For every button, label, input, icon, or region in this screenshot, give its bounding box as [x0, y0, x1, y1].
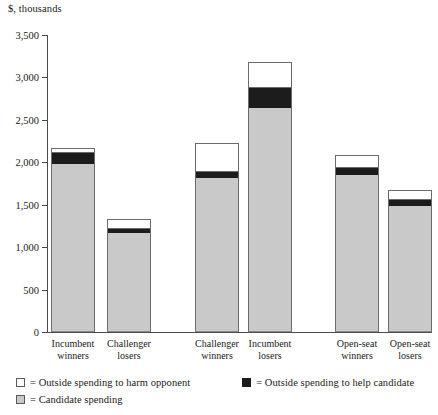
y-tick-3000: 3,000	[42, 77, 47, 78]
y-tick-label-500: 500	[23, 284, 39, 295]
legend-row-1: = Outside spending to harm opponent = Ou…	[16, 374, 434, 391]
x-label-open-seat-losers: Open-seatlosers	[365, 338, 438, 362]
bar-segment-gray	[195, 178, 239, 332]
legend-label-help: = Outside spending to help candidate	[256, 377, 414, 388]
plot-area: 3,5003,0002,5002,0001,5001,0005000	[47, 35, 432, 332]
x-label-line: Open-seat	[365, 338, 438, 350]
y-tick-1500: 1,500	[42, 205, 47, 206]
bar-incumbent-losers	[248, 62, 292, 332]
y-tick-label-1500: 1,500	[15, 199, 39, 210]
stacked-bar-chart: $, thousands 3,5003,0002,5002,0001,5001,…	[0, 0, 438, 415]
bar-incumbent-winners	[51, 148, 95, 332]
bar-segment-black	[51, 153, 95, 164]
y-tick-label-0: 0	[34, 327, 39, 338]
bar-segment-white	[107, 219, 151, 229]
x-label-line: Challenger	[84, 338, 174, 350]
x-axis-line	[47, 332, 432, 333]
chart-legend: = Outside spending to harm opponent = Ou…	[16, 374, 434, 408]
x-label-line: losers	[365, 350, 438, 362]
y-tick-2500: 2,500	[42, 120, 47, 121]
legend-swatch-black-icon	[242, 378, 251, 387]
legend-label-harm: = Outside spending to harm opponent	[30, 377, 190, 388]
bar-segment-gray	[335, 175, 379, 332]
x-label-line: Incumbent	[225, 338, 315, 350]
bar-challenger-winners	[195, 143, 239, 332]
legend-swatch-white-icon	[16, 378, 25, 387]
y-tick-label-1000: 1,000	[15, 242, 39, 253]
bar-challenger-losers	[107, 219, 151, 332]
bar-segment-white	[335, 155, 379, 168]
x-label-line: losers	[84, 350, 174, 362]
y-tick-3500: 3,500	[42, 35, 47, 36]
y-tick-1000: 1,000	[42, 247, 47, 248]
legend-item-harm: = Outside spending to harm opponent	[16, 377, 190, 388]
y-tick-0: 0	[42, 332, 47, 333]
bar-segment-gray	[248, 108, 292, 332]
y-tick-500: 500	[42, 290, 47, 291]
bar-segment-black	[248, 88, 292, 107]
bar-segment-gray	[388, 206, 432, 332]
bar-segment-white	[195, 143, 239, 173]
bar-open-seat-winners	[335, 155, 379, 332]
bar-segment-gray	[107, 233, 151, 332]
x-label-challenger-losers: Challengerlosers	[84, 338, 174, 362]
y-tick-2000: 2,000	[42, 162, 47, 163]
bar-segment-white	[388, 190, 432, 200]
bar-segment-white	[248, 62, 292, 88]
legend-label-candidate: = Candidate spending	[30, 394, 123, 405]
y-tick-label-2500: 2,500	[15, 114, 39, 125]
legend-item-help: = Outside spending to help candidate	[242, 377, 414, 388]
y-tick-label-2000: 2,000	[15, 157, 39, 168]
bar-segment-black	[335, 168, 379, 175]
y-axis-caption: $, thousands	[8, 3, 62, 14]
y-tick-label-3000: 3,000	[15, 72, 39, 83]
bar-segment-gray	[51, 164, 95, 332]
y-tick-label-3500: 3,500	[15, 30, 39, 41]
x-label-line: losers	[225, 350, 315, 362]
x-label-incumbent-losers: Incumbentlosers	[225, 338, 315, 362]
legend-row-2: = Candidate spending	[16, 391, 434, 408]
y-axis-line	[47, 35, 48, 332]
legend-item-candidate: = Candidate spending	[16, 394, 123, 405]
bar-open-seat-losers	[388, 190, 432, 332]
legend-swatch-gray-icon	[16, 395, 25, 404]
